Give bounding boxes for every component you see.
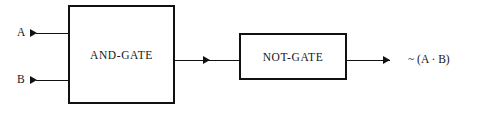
wire-input-a — [36, 33, 70, 34]
output-expression-label: ~ (A · B) — [408, 54, 450, 66]
wire-input-b — [36, 80, 70, 81]
input-label-a: A — [17, 27, 25, 39]
gate-box-not: NOT-GATE — [239, 33, 347, 80]
gate-label-not: NOT-GATE — [263, 51, 324, 63]
gate-label-and: AND-GATE — [90, 49, 153, 61]
logic-circuit-diagram: A B AND-GATE NOT-GATE ~ (A · B) — [0, 0, 479, 116]
arrowhead-right-icon-mid — [203, 56, 210, 64]
input-label-b: B — [17, 74, 25, 86]
gate-box-and: AND-GATE — [68, 5, 175, 104]
arrowhead-right-icon-output — [383, 56, 390, 64]
